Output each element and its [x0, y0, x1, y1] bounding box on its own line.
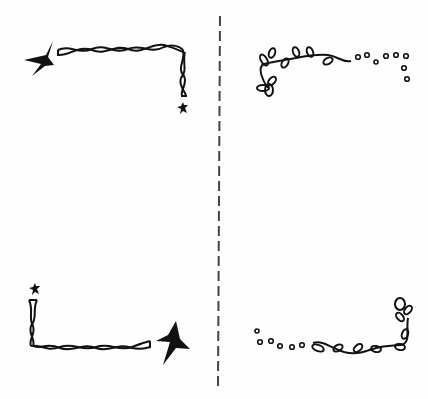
small-star-icon: [177, 102, 188, 114]
dashed-divider: [218, 16, 220, 386]
dot-trail: [255, 329, 304, 349]
small-star-icon: [29, 283, 40, 295]
top-left-corner: [24, 41, 188, 114]
large-star-icon: [156, 321, 190, 365]
top-right-corner: [257, 46, 409, 96]
bottom-left-corner: [29, 283, 190, 365]
dot-trail: [356, 53, 410, 82]
doodle-artwork: [0, 0, 428, 399]
bottom-right-corner: [255, 298, 414, 354]
doodle-canvas: [0, 0, 428, 399]
large-star-icon: [24, 41, 54, 76]
